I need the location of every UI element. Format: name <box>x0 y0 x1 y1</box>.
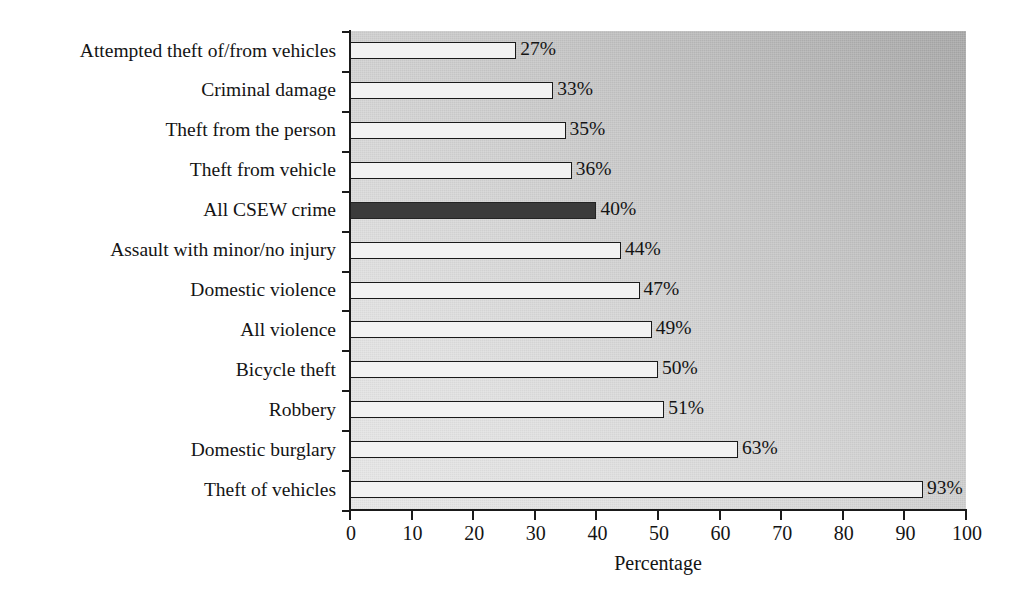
bar-row: 40% <box>350 191 966 231</box>
x-axis-tick-label: 60 <box>691 523 751 543</box>
x-axis-tick <box>780 511 782 520</box>
x-axis-tick <box>349 511 351 520</box>
x-axis-tick <box>472 511 474 520</box>
y-axis-tick <box>342 151 350 153</box>
category-label: Theft of vehicles <box>0 480 336 500</box>
bar <box>350 361 658 378</box>
bar-value-label: 50% <box>662 358 698 378</box>
category-label: Attempted theft of/from vehicles <box>0 41 336 61</box>
category-label: Bicycle theft <box>0 360 336 380</box>
category-label: Domestic violence <box>0 280 336 300</box>
x-axis-title: Percentage <box>350 553 966 573</box>
bar <box>350 441 738 458</box>
x-axis-tick-label: 80 <box>814 523 874 543</box>
y-axis-tick <box>342 271 350 273</box>
x-axis-tick-label: 10 <box>383 523 443 543</box>
bar-value-label: 36% <box>576 159 612 179</box>
y-axis-tick <box>342 111 350 113</box>
bar-highlighted <box>350 202 596 219</box>
x-axis-tick <box>411 511 413 520</box>
x-axis-tick-label: 40 <box>567 523 627 543</box>
bar-value-label: 27% <box>520 39 556 59</box>
x-axis-tick <box>903 511 905 520</box>
bar-chart: Attempted theft of/from vehiclesCriminal… <box>0 0 1023 598</box>
y-axis-tick <box>342 470 350 472</box>
x-axis-tick-label: 50 <box>629 523 689 543</box>
x-axis-tick <box>842 511 844 520</box>
category-label: All CSEW crime <box>0 200 336 220</box>
y-axis-tick <box>342 310 350 312</box>
bar-value-label: 93% <box>927 478 963 498</box>
x-axis-tick <box>595 511 597 520</box>
bar-value-label: 47% <box>644 279 680 299</box>
category-label: All violence <box>0 320 336 340</box>
x-axis-tick-label: 90 <box>875 523 935 543</box>
bar-value-label: 44% <box>625 239 661 259</box>
y-axis-tick <box>342 231 350 233</box>
bar-row: 33% <box>350 71 966 111</box>
bar-value-label: 35% <box>570 119 606 139</box>
bar <box>350 282 640 299</box>
y-axis-tick <box>342 31 350 33</box>
category-label: Domestic burglary <box>0 440 336 460</box>
bar-row: 35% <box>350 111 966 151</box>
bar-row: 36% <box>350 151 966 191</box>
bar-value-label: 33% <box>557 79 593 99</box>
bar-row: 47% <box>350 271 966 311</box>
bar <box>350 242 621 259</box>
x-axis-tick-label: 20 <box>444 523 504 543</box>
category-axis: Attempted theft of/from vehiclesCriminal… <box>0 31 344 510</box>
bar-row: 27% <box>350 31 966 71</box>
bar-row: 50% <box>350 350 966 390</box>
x-axis-tick-label: 30 <box>506 523 566 543</box>
y-axis-tick <box>342 191 350 193</box>
category-label: Criminal damage <box>0 80 336 100</box>
x-axis-tick-label: 70 <box>752 523 812 543</box>
bar-value-label: 51% <box>668 398 704 418</box>
y-axis-tick <box>342 71 350 73</box>
category-label: Assault with minor/no injury <box>0 240 336 260</box>
x-axis-tick-label: 0 <box>321 523 381 543</box>
bar <box>350 82 553 99</box>
bar-row: 44% <box>350 231 966 271</box>
bar <box>350 401 664 418</box>
x-axis-tick <box>965 511 967 520</box>
bar-value-label: 63% <box>742 438 778 458</box>
y-axis-tick <box>342 430 350 432</box>
category-label: Theft from vehicle <box>0 160 336 180</box>
bar-value-label: 40% <box>600 199 636 219</box>
x-axis-tick <box>657 511 659 520</box>
bar-row: 93% <box>350 470 966 510</box>
bar <box>350 481 923 498</box>
bar <box>350 162 572 179</box>
bar <box>350 321 652 338</box>
bar-row: 63% <box>350 430 966 470</box>
x-axis-tick <box>719 511 721 520</box>
bar <box>350 42 516 59</box>
x-axis-tick-label: 100 <box>937 523 997 543</box>
category-label: Theft from the person <box>0 120 336 140</box>
y-axis-tick <box>342 350 350 352</box>
category-label: Robbery <box>0 400 336 420</box>
bar <box>350 122 566 139</box>
x-axis-tick <box>534 511 536 520</box>
bar-value-label: 49% <box>656 318 692 338</box>
bar-row: 51% <box>350 390 966 430</box>
bar-row: 49% <box>350 310 966 350</box>
plot-area: 27%33%35%36%40%44%47%49%50%51%63%93% <box>350 31 966 510</box>
y-axis-tick <box>342 390 350 392</box>
